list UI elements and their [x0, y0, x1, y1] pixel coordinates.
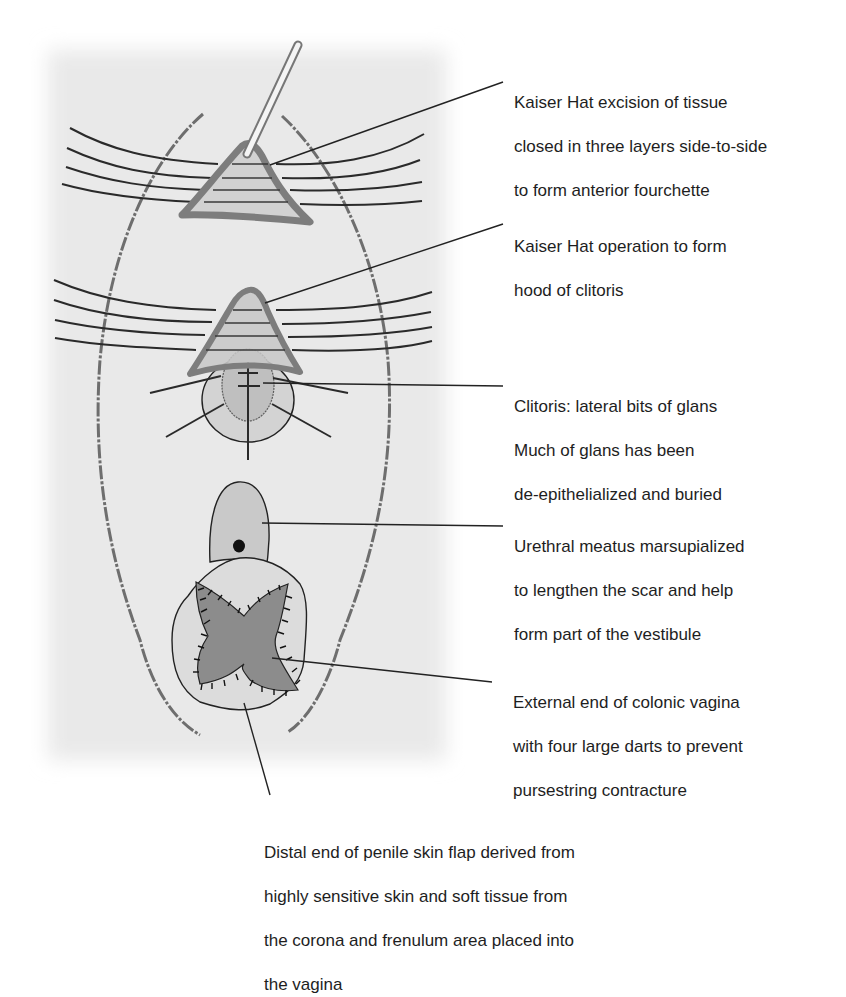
- urethral-opening: [233, 540, 245, 553]
- label-line: form part of the vestibule: [514, 624, 745, 646]
- label-line: Clitoris: lateral bits of glans: [514, 396, 722, 418]
- label-kaiser-hat-hood: Kaiser Hat operation to form hood of cli…: [514, 214, 727, 324]
- label-colonic-vagina: External end of colonic vagina with four…: [513, 670, 743, 824]
- label-line: Kaiser Hat excision of tissue: [514, 92, 767, 114]
- label-line: highly sensitive skin and soft tissue fr…: [264, 886, 575, 908]
- label-line: Much of glans has been: [514, 440, 722, 462]
- label-line: hood of clitoris: [514, 280, 727, 302]
- label-line: Kaiser Hat operation to form: [514, 236, 727, 258]
- label-line: Distal end of penile skin flap derived f…: [264, 842, 575, 864]
- label-kaiser-hat-excision: Kaiser Hat excision of tissue closed in …: [514, 70, 767, 224]
- label-line: Urethral meatus marsupialized: [514, 536, 745, 558]
- label-line: closed in three layers side-to-side: [514, 136, 767, 158]
- label-line: with four large darts to prevent: [513, 736, 743, 758]
- label-line: the corona and frenulum area placed into: [264, 930, 575, 952]
- label-urethral-meatus: Urethral meatus marsupialized to lengthe…: [514, 514, 745, 668]
- label-line: to lengthen the scar and help: [514, 580, 745, 602]
- label-line: de-epithelialized and buried: [514, 484, 722, 506]
- label-line: pursestring contracture: [513, 780, 743, 802]
- label-clitoris: Clitoris: lateral bits of glans Much of …: [514, 374, 722, 528]
- label-line: to form anterior fourchette: [514, 180, 767, 202]
- label-penile-skin-flap: Distal end of penile skin flap derived f…: [264, 820, 575, 997]
- label-line: the vagina: [264, 974, 575, 996]
- label-line: External end of colonic vagina: [513, 692, 743, 714]
